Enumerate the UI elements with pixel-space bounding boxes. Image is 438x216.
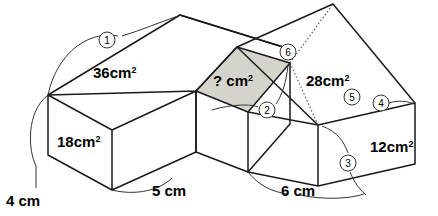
callout-6[interactable]: 6 <box>280 44 296 60</box>
center-top-area-label: ? cm2 <box>213 72 253 89</box>
callout-4[interactable]: 4 <box>373 95 389 111</box>
svg-text:1: 1 <box>104 35 110 46</box>
callout-3[interactable]: 3 <box>340 155 356 171</box>
svg-text:6: 6 <box>285 47 291 58</box>
svg-text:4: 4 <box>378 98 384 109</box>
height-dim-leader <box>30 95 48 188</box>
solid-figure-svg: 36cm2 18cm2 ? cm2 28cm2 12cm2 4 cm 5 cm … <box>0 0 438 216</box>
diagram-canvas: 36cm2 18cm2 ? cm2 28cm2 12cm2 4 cm 5 cm … <box>0 0 438 216</box>
height-dim-label: 4 cm <box>6 192 40 209</box>
left-top-area-label: 36cm2 <box>93 64 136 81</box>
left-block-side-face <box>112 91 196 190</box>
left-depth-dim-label: 5 cm <box>152 182 186 199</box>
right-top-area-label: 28cm2 <box>306 72 349 89</box>
left-front-area-label: 18cm2 <box>57 133 100 150</box>
svg-text:5: 5 <box>349 92 355 103</box>
callout-1[interactable]: 1 <box>99 32 115 48</box>
svg-text:2: 2 <box>264 105 270 116</box>
svg-text:3: 3 <box>345 158 351 169</box>
right-depth-dim-label: 6 cm <box>281 182 315 199</box>
callout-5[interactable]: 5 <box>344 89 360 105</box>
callout-2[interactable]: 2 <box>259 102 275 118</box>
right-end-area-label: 12cm2 <box>370 138 413 155</box>
